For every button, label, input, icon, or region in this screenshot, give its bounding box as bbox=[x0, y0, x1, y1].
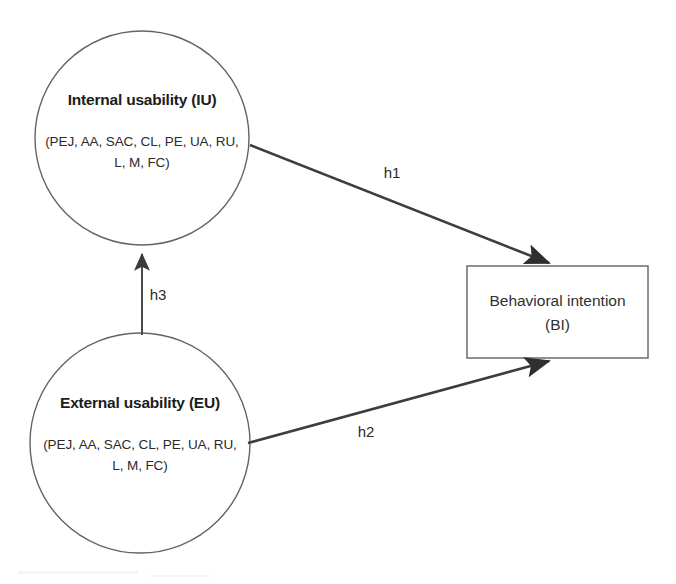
internal-usability-title: Internal usability (IU) bbox=[68, 91, 217, 108]
conceptual-model-diagram: Internal usability (IU) (PEJ, AA, SAC, C… bbox=[0, 0, 676, 584]
behavioral-intention-title-line2: (BI) bbox=[545, 316, 570, 333]
internal-usability-subtitle-line2: L, M, FC) bbox=[114, 155, 169, 170]
node-internal-usability[interactable]: Internal usability (IU) (PEJ, AA, SAC, C… bbox=[35, 31, 249, 245]
internal-usability-subtitle-line1: (PEJ, AA, SAC, CL, PE, UA, RU, bbox=[45, 134, 239, 149]
behavioral-intention-box[interactable] bbox=[467, 266, 648, 358]
edge-h1-line[interactable] bbox=[250, 145, 549, 263]
diagram-canvas: Internal usability (IU) (PEJ, AA, SAC, C… bbox=[0, 0, 676, 584]
node-external-usability[interactable]: External usability (EU) (PEJ, AA, SAC, C… bbox=[30, 333, 250, 553]
edge-h2[interactable]: h2 bbox=[248, 361, 549, 443]
edge-h1[interactable]: h1 bbox=[250, 145, 549, 263]
edge-h1-label: h1 bbox=[384, 164, 401, 181]
node-behavioral-intention[interactable]: Behavioral intention (BI) bbox=[467, 266, 648, 358]
behavioral-intention-title-line1: Behavioral intention bbox=[489, 292, 625, 309]
external-usability-title: External usability (EU) bbox=[60, 394, 220, 411]
edge-h3-label: h3 bbox=[150, 286, 167, 303]
external-usability-subtitle-line2: L, M, FC) bbox=[112, 458, 167, 473]
edge-h2-label: h2 bbox=[358, 423, 375, 440]
edge-h3[interactable]: h3 bbox=[142, 254, 166, 335]
external-usability-subtitle-line1: (PEJ, AA, SAC, CL, PE, UA, RU, bbox=[43, 437, 237, 452]
edge-h2-line[interactable] bbox=[248, 361, 549, 443]
